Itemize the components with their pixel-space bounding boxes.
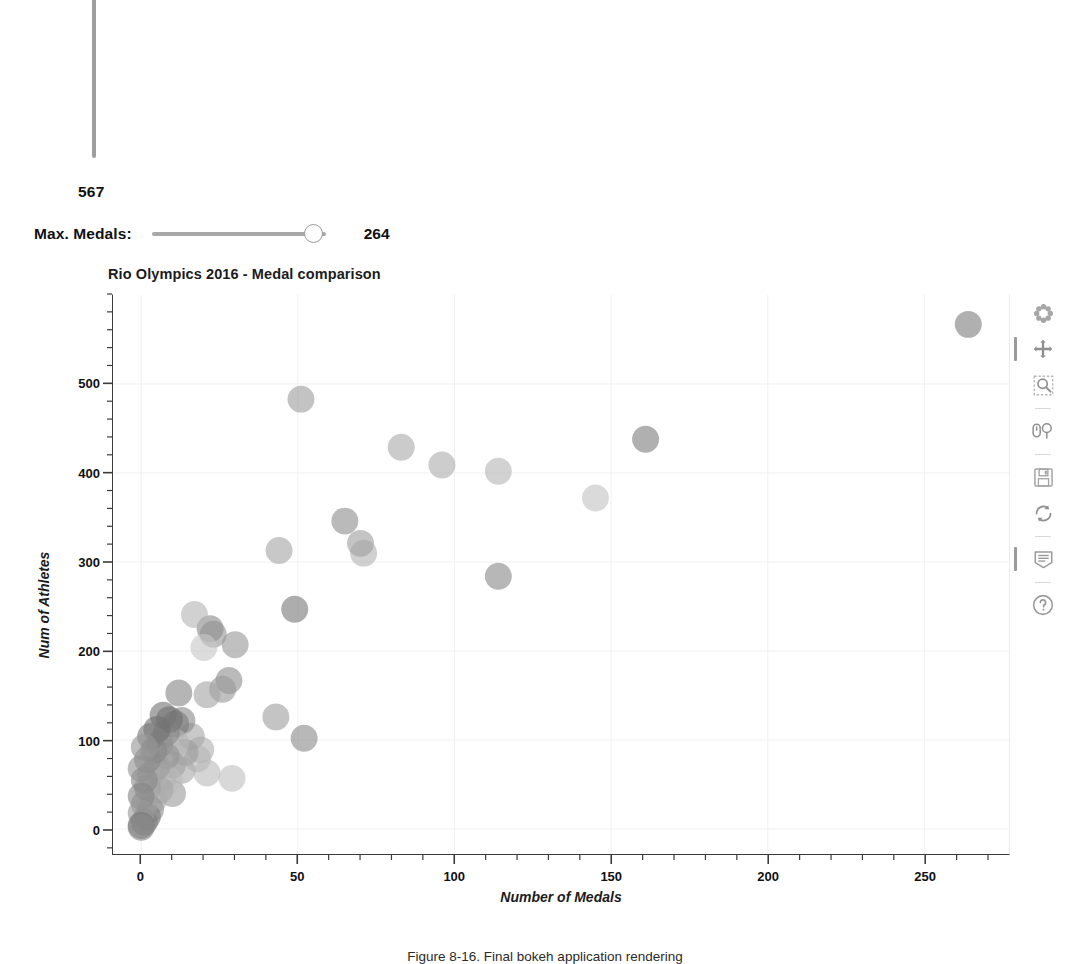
x-tick-label: 250 <box>914 869 936 884</box>
box-zoom-tool-icon[interactable] <box>1028 370 1058 400</box>
toolbar-divider <box>1035 582 1051 583</box>
max-medals-slider-track[interactable] <box>152 232 326 236</box>
scatter-point[interactable] <box>485 563 512 590</box>
save-tool-icon[interactable] <box>1028 462 1058 492</box>
scatter-point[interactable] <box>291 725 318 752</box>
max-medals-label: Max. Medals: <box>34 225 132 243</box>
figure-caption: Figure 8-16. Final bokeh application ren… <box>407 949 682 964</box>
scatter-point[interactable] <box>331 508 358 535</box>
scatter-point[interactable] <box>281 596 308 623</box>
max-medals-slider-row: Max. Medals: 264 <box>34 222 390 246</box>
reset-tool-icon[interactable] <box>1028 498 1058 528</box>
plot-title: Rio Olympics 2016 - Medal comparison <box>108 266 381 282</box>
y-tick-label: 200 <box>66 644 100 659</box>
y-tick-label: 500 <box>66 376 100 391</box>
max-athletes-slider-track[interactable] <box>92 0 96 158</box>
x-tick-label: 100 <box>443 869 465 884</box>
scatter-point[interactable] <box>347 530 374 557</box>
x-axis-title: Number of Medals <box>500 889 621 905</box>
plot-canvas <box>113 295 1009 854</box>
max-athletes-slider-value: 567 <box>78 183 104 201</box>
max-medals-value: 264 <box>364 225 390 243</box>
scatter-point[interactable] <box>262 703 289 730</box>
scatter-point[interactable] <box>190 634 217 661</box>
max-medals-slider[interactable] <box>152 224 326 244</box>
scatter-point[interactable] <box>181 601 208 628</box>
scatter-point[interactable] <box>128 814 155 841</box>
scatter-point[interactable] <box>485 458 512 485</box>
toolbar-divider <box>1035 408 1051 409</box>
x-tick-label: 150 <box>600 869 622 884</box>
scatter-point[interactable] <box>388 434 415 461</box>
scatter-point[interactable] <box>632 426 659 453</box>
pan-tool-icon[interactable] <box>1028 334 1058 364</box>
y-tick-label: 0 <box>66 822 100 837</box>
bokeh-logo-icon[interactable] <box>1028 298 1058 328</box>
scatter-point[interactable] <box>219 765 246 792</box>
scatter-point[interactable] <box>266 537 293 564</box>
max-athletes-slider[interactable] <box>88 0 128 170</box>
y-axis-title: Num of Athletes <box>36 552 52 659</box>
scatter-point[interactable] <box>165 679 192 706</box>
x-tick-label: 0 <box>137 869 144 884</box>
y-tick-label: 300 <box>66 554 100 569</box>
scatter-point[interactable] <box>955 311 982 338</box>
y-tick-label: 100 <box>66 733 100 748</box>
help-tool-icon[interactable] <box>1028 590 1058 620</box>
max-medals-slider-handle[interactable] <box>304 224 323 243</box>
scatter-point[interactable] <box>194 681 221 708</box>
x-tick-label: 50 <box>290 869 304 884</box>
scatter-point[interactable] <box>128 755 155 782</box>
bokeh-toolbar <box>1026 298 1060 626</box>
scatter-point[interactable] <box>582 484 609 511</box>
scatter-point[interactable] <box>288 386 315 413</box>
toolbar-divider <box>1035 536 1051 537</box>
hover-tool-icon[interactable] <box>1028 544 1058 574</box>
toolbar-divider <box>1035 454 1051 455</box>
scatter-point[interactable] <box>428 452 455 479</box>
y-tick-label: 400 <box>66 465 100 480</box>
scatter-plot-figure: Rio Olympics 2016 - Medal comparison 050… <box>0 262 1091 922</box>
plot-frame[interactable] <box>112 294 1010 855</box>
x-tick-label: 200 <box>757 869 779 884</box>
wheel-zoom-tool-icon[interactable] <box>1028 416 1058 446</box>
